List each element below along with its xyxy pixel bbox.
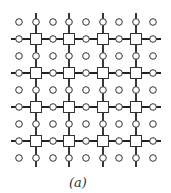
figure-caption: (a): [58, 175, 98, 190]
square-node: [98, 68, 109, 79]
circle-node: [100, 121, 107, 128]
circle-node: [16, 155, 23, 162]
circle-node: [83, 155, 90, 162]
square-node: [131, 34, 142, 45]
circle-node: [116, 138, 123, 145]
square-node: [64, 102, 75, 113]
circle-node: [83, 19, 90, 26]
circle-node: [133, 87, 140, 94]
circle-node: [66, 53, 73, 60]
circle-node: [16, 138, 23, 145]
circle-node: [150, 138, 157, 145]
circle-node: [133, 155, 140, 162]
circle-node: [150, 70, 157, 77]
circle-node: [100, 155, 107, 162]
circle-node: [50, 70, 57, 77]
circle-node: [50, 138, 57, 145]
circle-node: [33, 121, 40, 128]
square-node: [64, 68, 75, 79]
circle-node: [150, 53, 157, 60]
circle-node: [16, 87, 23, 94]
circle-node: [100, 19, 107, 26]
circle-node: [50, 53, 57, 60]
circle-node: [33, 155, 40, 162]
circle-node: [116, 36, 123, 43]
circle-node: [150, 36, 157, 43]
circle-node: [116, 104, 123, 111]
circle-node: [66, 121, 73, 128]
circle-node: [33, 53, 40, 60]
circle-node: [83, 70, 90, 77]
circle-node: [50, 87, 57, 94]
circle-node: [83, 36, 90, 43]
circle-node: [16, 19, 23, 26]
circle-node: [116, 121, 123, 128]
circle-node: [66, 87, 73, 94]
square-node: [31, 102, 42, 113]
circle-node: [16, 104, 23, 111]
circle-node: [50, 36, 57, 43]
lattice-diagram: [0, 0, 171, 193]
circle-node: [133, 53, 140, 60]
square-node: [31, 136, 42, 147]
circle-node: [16, 121, 23, 128]
circle-node: [83, 121, 90, 128]
circle-node: [50, 104, 57, 111]
circle-node: [150, 155, 157, 162]
square-node: [131, 102, 142, 113]
circle-node: [83, 138, 90, 145]
circle-node: [116, 155, 123, 162]
square-node: [31, 34, 42, 45]
square-node: [98, 136, 109, 147]
circle-node: [83, 53, 90, 60]
square-node: [131, 136, 142, 147]
circle-node: [16, 53, 23, 60]
square-node: [131, 68, 142, 79]
circle-node: [116, 53, 123, 60]
square-node: [64, 34, 75, 45]
circle-node: [83, 87, 90, 94]
square-node: [31, 68, 42, 79]
circle-node: [83, 104, 90, 111]
square-node: [98, 102, 109, 113]
circle-node: [33, 87, 40, 94]
circle-node: [16, 70, 23, 77]
circle-node: [133, 121, 140, 128]
circle-node: [150, 19, 157, 26]
circle-node: [16, 36, 23, 43]
circle-node: [116, 87, 123, 94]
circle-node: [150, 121, 157, 128]
circle-node: [150, 87, 157, 94]
circle-node: [66, 155, 73, 162]
square-node: [98, 34, 109, 45]
circle-node: [133, 19, 140, 26]
circle-node: [50, 121, 57, 128]
circle-node: [66, 19, 73, 26]
square-node: [64, 136, 75, 147]
circle-node: [100, 87, 107, 94]
circle-node: [150, 104, 157, 111]
circle-node: [50, 155, 57, 162]
circle-node: [50, 19, 57, 26]
circle-node: [100, 53, 107, 60]
circle-node: [33, 19, 40, 26]
circle-node: [116, 19, 123, 26]
circle-node: [116, 70, 123, 77]
